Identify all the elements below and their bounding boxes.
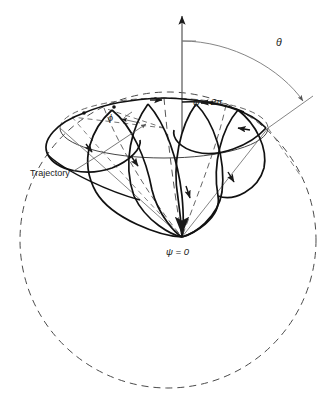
theta-arc (182, 41, 303, 101)
cone-generator-right (182, 128, 268, 237)
trajectory-petal-5b (218, 110, 265, 198)
arrow-flow-5 (186, 186, 190, 198)
radial-spoke-phi-a (72, 117, 164, 128)
diagram-svg (0, 0, 336, 416)
node-dot-mid (112, 105, 116, 109)
label-theta: θ (276, 36, 282, 48)
figure-canvas: ψ = 2π ψ = 0 θ ϕ Trajectory (0, 0, 336, 416)
trajectory-petal-3b (148, 104, 183, 237)
arrow-flow-3 (238, 128, 250, 130)
meridian-dashed-1 (104, 108, 182, 237)
trajectory-petal-4 (176, 104, 196, 237)
node-dot-left (82, 111, 86, 115)
cone-edge-extension-lower-right (268, 128, 300, 175)
cone-edge-extension-right (268, 96, 313, 128)
label-trajectory: Trajectory (30, 168, 70, 178)
meridian-dashed-3 (182, 105, 226, 237)
trajectory-petal-1 (46, 113, 140, 172)
label-phi: ϕ (108, 113, 113, 123)
label-psi-0: ψ = 0 (166, 246, 189, 257)
trajectory-petal-3 (129, 104, 182, 237)
meridian-dashed-2 (164, 98, 182, 237)
label-psi-2pi: ψ = 2π (193, 96, 222, 107)
